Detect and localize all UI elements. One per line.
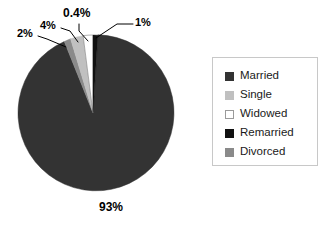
- legend-item-divorced[interactable]: Divorced: [225, 143, 317, 161]
- legend-swatch-married: [225, 72, 234, 81]
- legend-label-widowed: Widowed: [240, 108, 287, 120]
- data-label-remarried: 1%: [135, 17, 151, 28]
- legend-swatch-divorced: [225, 148, 234, 157]
- legend-label-divorced: Divorced: [240, 146, 285, 158]
- data-label-single: 4%: [40, 20, 56, 31]
- data-label-married: 93%: [99, 201, 123, 213]
- legend-label-single: Single: [240, 89, 272, 101]
- pie-plot-area: 2% 4% 0.4% 1% 93%: [0, 0, 200, 225]
- legend-label-married: Married: [240, 70, 279, 82]
- legend-swatch-single: [225, 91, 234, 100]
- pie-chart-figure: 2% 4% 0.4% 1% 93% Married Single Widowed…: [0, 0, 336, 225]
- legend-item-remarried[interactable]: Remarried: [225, 124, 317, 142]
- legend-item-single[interactable]: Single: [225, 86, 317, 104]
- legend-item-widowed[interactable]: Widowed: [225, 105, 317, 123]
- data-label-widowed: 0.4%: [63, 7, 90, 19]
- data-label-divorced: 2%: [17, 28, 33, 39]
- legend-swatch-widowed: [225, 110, 234, 119]
- legend-item-married[interactable]: Married: [225, 67, 317, 85]
- legend-label-remarried: Remarried: [240, 127, 294, 139]
- chart-legend: Married Single Widowed Remarried Divorce…: [212, 57, 318, 166]
- leader-line-divorced: [38, 36, 66, 47]
- legend-swatch-remarried: [225, 129, 234, 138]
